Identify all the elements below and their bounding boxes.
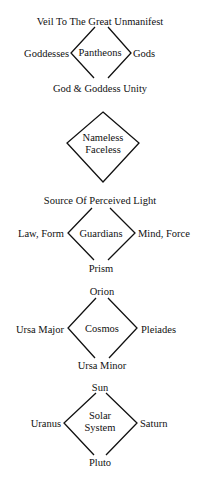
guardians-left-label: Law, Form [18, 228, 64, 239]
solar-system-top-label: Sun [92, 382, 109, 393]
guardians-bottom-label: Prism [89, 263, 114, 274]
pantheons-bottom-label: God & Goddess Unity [53, 83, 148, 94]
cosmos-center-label: Cosmos [85, 323, 119, 334]
solar-system-right-label: Saturn [140, 418, 168, 429]
cosmos-top-label: Orion [90, 286, 115, 297]
guardians-diamond: Source Of Perceived Light Law, Form Mind… [18, 195, 190, 274]
cosmos-right-label: Pleiades [141, 324, 176, 335]
pantheons-right-label: Gods [133, 48, 155, 59]
solar-system-bottom-label: Pluto [89, 457, 111, 468]
nameless-center-line1: Nameless [83, 132, 124, 143]
solar-system-center-line1: Solar [89, 410, 112, 421]
diagram-canvas: Veil To The Great Unmanifest Goddesses G… [0, 0, 197, 489]
solar-system-left-label: Uranus [31, 418, 61, 429]
solar-system-center-line2: System [85, 422, 116, 433]
guardians-center-label: Guardians [79, 228, 122, 239]
nameless-diamond: Nameless Faceless [67, 112, 139, 182]
cosmos-left-label: Ursa Major [16, 324, 65, 335]
solar-system-diamond: Sun Uranus Saturn Solar System Pluto [31, 382, 168, 468]
pantheons-center-label: Pantheons [78, 47, 121, 58]
guardians-right-label: Mind, Force [138, 228, 190, 239]
cosmos-bottom-label: Ursa Minor [78, 360, 127, 371]
cosmos-diamond: Orion Ursa Major Pleiades Cosmos Ursa Mi… [16, 286, 176, 371]
pantheons-diamond: Veil To The Great Unmanifest Goddesses G… [24, 16, 163, 94]
pantheons-left-label: Goddesses [24, 48, 69, 59]
guardians-top-label: Source Of Perceived Light [44, 195, 156, 206]
nameless-center-line2: Faceless [85, 144, 121, 155]
pantheons-top-label: Veil To The Great Unmanifest [37, 16, 164, 27]
